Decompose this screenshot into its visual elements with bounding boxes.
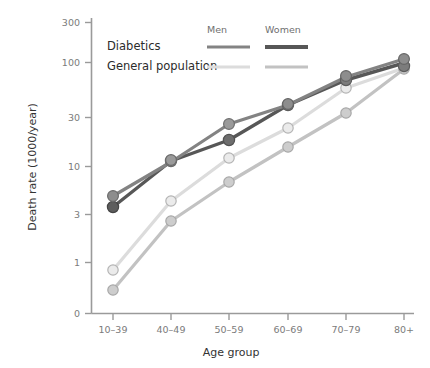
y-tick-label-1: 1 bbox=[74, 257, 80, 268]
legend-row-label-general-population: General population bbox=[107, 59, 217, 73]
y-tick-marks bbox=[85, 23, 92, 314]
data-point bbox=[283, 123, 293, 133]
y-tick-labels: 300 100 30 10 3 1 0 bbox=[62, 17, 80, 319]
data-point bbox=[108, 285, 118, 295]
data-point bbox=[224, 153, 234, 163]
legend-row-label-diabetics: Diabetics bbox=[107, 39, 161, 53]
y-tick-label-300: 300 bbox=[62, 17, 80, 28]
x-tick-label-10-39: 10–39 bbox=[99, 324, 128, 335]
data-point bbox=[341, 108, 351, 118]
data-point bbox=[108, 191, 119, 202]
legend: Men Women Diabetics General population bbox=[107, 24, 308, 73]
data-point bbox=[283, 99, 294, 110]
chart-svg: 300 100 30 10 3 1 0 10–39 40–49 50–59 60… bbox=[0, 0, 430, 368]
x-tick-marks bbox=[113, 314, 404, 321]
series-lines bbox=[113, 59, 404, 290]
legend-column-header-women: Women bbox=[265, 24, 301, 35]
data-point bbox=[223, 134, 234, 145]
data-point bbox=[399, 54, 410, 65]
data-point bbox=[107, 201, 118, 212]
data-point bbox=[224, 119, 235, 130]
data-point bbox=[166, 196, 176, 206]
data-point bbox=[283, 142, 293, 152]
x-tick-label-80-plus: 80+ bbox=[394, 324, 414, 335]
data-point bbox=[224, 177, 234, 187]
death-rate-line-chart: 300 100 30 10 3 1 0 10–39 40–49 50–59 60… bbox=[0, 0, 430, 368]
x-tick-label-70-79: 70–79 bbox=[332, 324, 361, 335]
line-general-population-women bbox=[113, 69, 404, 290]
data-point bbox=[341, 71, 352, 82]
x-tick-label-60-69: 60–69 bbox=[274, 324, 303, 335]
y-tick-label-30: 30 bbox=[68, 112, 80, 123]
y-tick-label-100: 100 bbox=[62, 57, 80, 68]
x-axis-title: Age group bbox=[203, 346, 260, 359]
x-tick-labels: 10–39 40–49 50–59 60–69 70–79 80+ bbox=[99, 324, 415, 335]
y-tick-label-3: 3 bbox=[74, 209, 80, 220]
y-tick-label-0: 0 bbox=[74, 308, 80, 319]
data-point bbox=[166, 155, 177, 166]
data-point bbox=[108, 265, 118, 275]
y-axis-title: Death rate (1000/year) bbox=[26, 103, 39, 230]
data-point bbox=[166, 216, 176, 226]
x-tick-label-40-49: 40–49 bbox=[157, 324, 186, 335]
legend-column-header-men: Men bbox=[207, 24, 227, 35]
x-tick-label-50-59: 50–59 bbox=[215, 324, 244, 335]
line-diabetics-men bbox=[113, 59, 404, 196]
y-tick-label-10: 10 bbox=[68, 161, 80, 172]
